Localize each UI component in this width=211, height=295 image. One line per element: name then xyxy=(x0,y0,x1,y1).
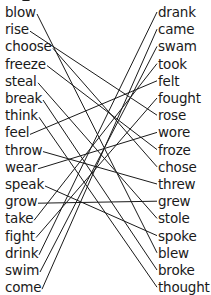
left-word-come: come xyxy=(5,279,41,295)
connection-line-come-came xyxy=(42,29,157,289)
connection-line-break-broke xyxy=(43,100,157,270)
left-word-rise: rise xyxy=(5,21,29,37)
left-word-grow: grow xyxy=(5,193,37,209)
right-word-stole: stole xyxy=(158,210,190,226)
left-word-swim: swim xyxy=(5,262,39,278)
right-word-threw: threw xyxy=(158,176,195,192)
right-word-took: took xyxy=(158,56,187,72)
left-word-steal: steal xyxy=(5,73,37,89)
right-word-swam: swam xyxy=(158,38,197,54)
right-word-wore: wore xyxy=(158,124,190,140)
connection-line-swim-swam xyxy=(40,46,157,272)
right-word-fought: fought xyxy=(158,90,201,106)
left-word-wear: wear xyxy=(5,159,37,175)
right-word-froze: froze xyxy=(158,142,191,158)
left-word-choose: choose xyxy=(5,38,52,54)
right-word-blew: blew xyxy=(158,245,189,261)
right-word-thought: thought xyxy=(158,279,210,295)
left-word-take: take xyxy=(5,210,33,226)
right-word-broke: broke xyxy=(158,262,195,278)
right-word-grew: grew xyxy=(158,193,190,209)
left-word-fight: fight xyxy=(5,228,35,244)
left-word-drink: drink xyxy=(5,245,38,261)
right-word-drank: drank xyxy=(158,4,196,20)
right-word-felt: felt xyxy=(158,73,179,89)
right-word-chose: chose xyxy=(158,159,197,175)
left-word-speak: speak xyxy=(5,176,44,192)
left-word-throw: throw xyxy=(5,142,42,158)
right-word-came: came xyxy=(158,21,194,37)
left-word-feel: feel xyxy=(5,124,29,140)
connection-line-speak-spoke xyxy=(45,186,157,236)
left-word-blow: blow xyxy=(5,4,36,20)
left-word-think: think xyxy=(5,107,38,123)
left-word-break: break xyxy=(5,90,42,106)
left-word-freeze: freeze xyxy=(5,56,46,72)
right-word-rose: rose xyxy=(158,107,186,123)
right-word-spoke: spoke xyxy=(158,228,197,244)
